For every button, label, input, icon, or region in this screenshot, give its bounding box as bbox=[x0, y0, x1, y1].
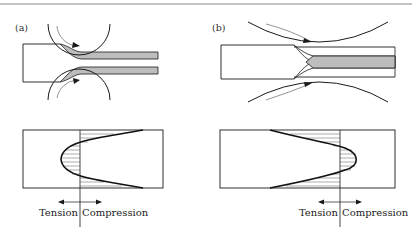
panel-b-label: (b) bbox=[212, 22, 226, 33]
panel-a-label: (a) bbox=[15, 22, 28, 33]
arrowhead-icon bbox=[73, 78, 80, 84]
arrow-left-icon bbox=[318, 200, 324, 205]
panel-a-rolling: (a) bbox=[15, 22, 158, 100]
compression-label-a: Compression bbox=[82, 207, 149, 218]
arrowhead-icon bbox=[303, 38, 312, 43]
arrow-right-icon bbox=[96, 200, 102, 205]
stress-diagram-a: Tension Compression bbox=[23, 130, 163, 227]
compression-label-b: Compression bbox=[342, 207, 409, 218]
deformed-core-b bbox=[306, 56, 395, 68]
stock-a-incoming bbox=[23, 44, 60, 82]
stress-curve-b bbox=[270, 130, 356, 188]
rotation-arrow-bottom-a bbox=[57, 80, 76, 98]
rotation-arrow-bottom-b bbox=[266, 84, 310, 100]
arrow-right-icon bbox=[356, 200, 362, 205]
arrow-left-icon bbox=[58, 200, 64, 205]
stress-diagram-b: Tension Compression bbox=[220, 130, 409, 227]
tension-label-b: Tension bbox=[299, 207, 339, 218]
arrowhead-icon bbox=[72, 42, 80, 48]
tension-label-a: Tension bbox=[39, 207, 79, 218]
rolling-diagram: (a) (b) bbox=[0, 0, 419, 240]
panel-b-rolling: (b) bbox=[212, 22, 395, 102]
stock-b-incoming bbox=[221, 45, 294, 79]
stress-curve-a bbox=[61, 130, 143, 188]
